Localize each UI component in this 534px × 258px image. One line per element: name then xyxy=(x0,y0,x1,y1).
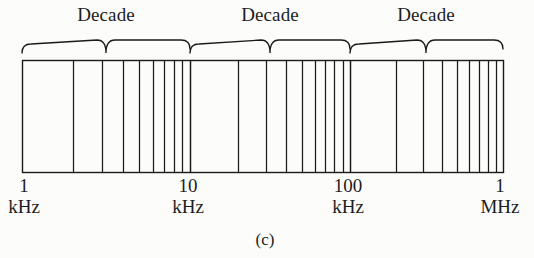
log-scale-decade-figure: Decade Decade Decade 1 kHz 10 kHz 100 kH… xyxy=(0,0,534,258)
decade-label-2: Decade xyxy=(241,4,299,26)
tick-label-10khz: 10 kHz xyxy=(172,176,204,218)
tick-unit: kHz xyxy=(172,196,204,218)
tick-group xyxy=(74,61,497,173)
figure-caption: (c) xyxy=(256,230,275,250)
tick-label-100khz: 100 kHz xyxy=(332,176,364,218)
decade-label-1: Decade xyxy=(77,4,135,26)
tick-value: 100 xyxy=(332,176,364,196)
decade-label-3: Decade xyxy=(397,4,455,26)
decade-brace-1 xyxy=(22,40,190,53)
tick-unit: kHz xyxy=(332,196,364,218)
decade-brace-3 xyxy=(350,40,503,53)
tick-value: 1 xyxy=(480,176,519,196)
tick-value: 10 xyxy=(172,176,204,196)
decade-brace-2 xyxy=(190,40,350,53)
tick-unit: MHz xyxy=(480,196,519,218)
tick-unit: kHz xyxy=(8,196,40,218)
tick-value: 1 xyxy=(8,176,40,196)
scale-box xyxy=(23,61,504,173)
log-scale-drawing xyxy=(0,0,534,258)
tick-label-1mhz: 1 MHz xyxy=(480,176,519,218)
tick-label-1khz: 1 kHz xyxy=(8,176,40,218)
